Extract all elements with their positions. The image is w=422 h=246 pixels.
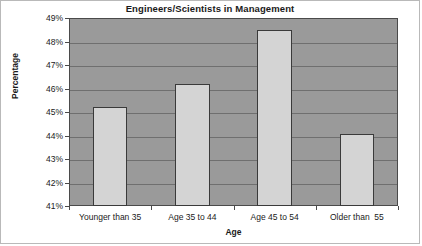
y-tick-mark (65, 159, 69, 160)
bar (175, 84, 210, 206)
y-tick-label: 43% (23, 154, 63, 164)
y-tick-label: 49% (23, 13, 63, 23)
y-tick-label: 47% (23, 60, 63, 70)
x-tick-label: Age 35 to 44 (151, 212, 233, 222)
x-tick-label: Older than 55 (316, 212, 398, 222)
x-tick-mark (316, 206, 317, 210)
x-tick-mark (398, 206, 399, 210)
chart-title: Engineers/Scientists in Management (1, 3, 419, 14)
y-tick-label: 41% (23, 201, 63, 211)
y-tick-mark (65, 42, 69, 43)
x-tick-label: Younger than 35 (69, 212, 151, 222)
y-tick-mark (65, 136, 69, 137)
y-tick-label: 46% (23, 84, 63, 94)
y-tick-label: 45% (23, 107, 63, 117)
y-tick-mark (65, 183, 69, 184)
y-tick-mark (65, 89, 69, 90)
y-tick-label: 48% (23, 37, 63, 47)
y-axis-title: Percentage (10, 26, 20, 126)
y-tick-mark (65, 65, 69, 66)
bar (93, 107, 128, 206)
gridline (70, 43, 397, 44)
y-tick-mark (65, 112, 69, 113)
x-axis-title: Age (69, 227, 398, 237)
bar (340, 134, 375, 206)
x-tick-mark (69, 206, 70, 210)
gridline (70, 66, 397, 67)
y-tick-label: 44% (23, 131, 63, 141)
gridline (70, 90, 397, 91)
x-tick-mark (234, 206, 235, 210)
x-tick-label: Age 45 to 54 (234, 212, 316, 222)
x-tick-mark (151, 206, 152, 210)
y-tick-label: 42% (23, 178, 63, 188)
chart-figure: Engineers/Scientists in Management Perce… (0, 0, 420, 244)
bar (257, 30, 292, 206)
y-tick-mark (65, 18, 69, 19)
